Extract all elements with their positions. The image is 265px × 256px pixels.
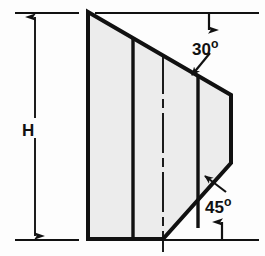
drawing-canvas: H 30o 45o <box>0 0 265 256</box>
top-angle-degree-icon: o <box>211 37 218 51</box>
top-angle-label: 30o <box>192 38 218 58</box>
bottom-angle-value: 45 <box>205 198 224 217</box>
technical-drawing-svg <box>0 0 265 256</box>
top-angle-value: 30 <box>192 40 211 59</box>
height-dimension-label: H <box>22 122 34 139</box>
bottom-angle-label: 45o <box>205 196 231 216</box>
height-label-text: H <box>22 121 34 140</box>
bottom-angle-degree-icon: o <box>224 195 231 209</box>
